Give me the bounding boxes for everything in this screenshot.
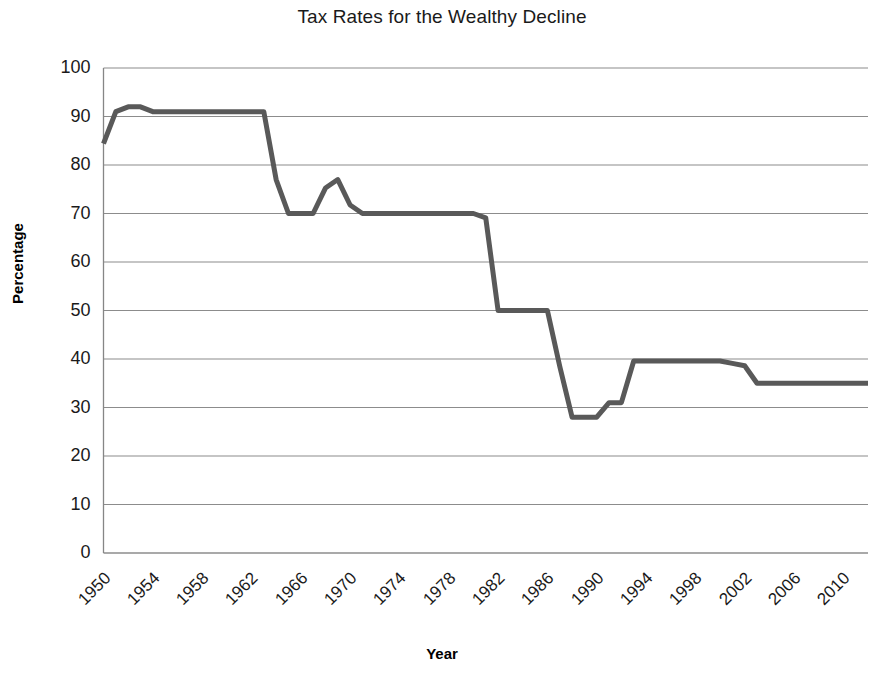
plot-area: [0, 0, 884, 676]
chart-container: Tax Rates for the Wealthy Decline Percen…: [0, 0, 884, 676]
grid-lines: [104, 68, 869, 553]
